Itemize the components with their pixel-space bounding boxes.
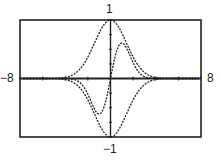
ymin-label: −1 <box>103 142 117 156</box>
ymax-label: 1 <box>106 2 113 16</box>
xmin-label: −8 <box>0 71 14 85</box>
xmax-label: 8 <box>207 71 214 85</box>
